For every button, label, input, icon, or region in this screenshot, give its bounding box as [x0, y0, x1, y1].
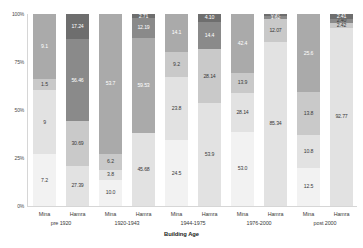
bar-group-labels: MinaHamra [28, 208, 94, 220]
bar-segment-value: 12.07 [269, 28, 281, 33]
stacked-bar[interactable]: 53.928.1414.44.10 [198, 14, 222, 206]
bar-segment-value: 6.2 [107, 159, 114, 164]
bar-slot: 12.510.813.825.6 [292, 14, 325, 206]
sub-label-slot: Hamra [127, 208, 160, 220]
bar-segment-value: 56.46 [71, 78, 83, 83]
bar-segment-value: 14.4 [205, 33, 215, 38]
stacked-bar[interactable]: 10.03.86.253.7 [99, 14, 123, 206]
bar-group: 12.510.813.825.692.772.422.402.41 [292, 14, 358, 206]
stacked-bar[interactable]: 53.028.1413.942.4 [231, 14, 255, 206]
stacked-bar[interactable]: 85.3412.071.620.97 [264, 14, 288, 206]
bar-group: 24.523.89.214.153.928.1414.44.10 [160, 14, 226, 206]
bar-segment[interactable]: 12.19 [132, 18, 156, 37]
bar-segment[interactable]: 42.4 [231, 14, 255, 73]
bar-segment[interactable]: 10.8 [297, 135, 321, 168]
bar-segment[interactable]: 27.39 [66, 166, 90, 206]
bar-slot: 7.291.59.1 [28, 14, 61, 206]
stacked-bar[interactable]: 27.3930.6956.4617.24 [66, 14, 90, 206]
stacked-bar[interactable]: 7.291.59.1 [33, 14, 57, 206]
y-axis-tick-label: 25% [15, 155, 24, 161]
bar-group-labels: MinaHamra [226, 208, 292, 220]
bar-segment[interactable]: 4.10 [198, 14, 222, 22]
sub-label-slot: Mina [160, 208, 193, 220]
bar-segment-value: 17.24 [71, 24, 83, 29]
y-axis-tick-label: 100% [12, 11, 24, 17]
stacked-bar[interactable]: 45.6859.5312.192.71 [132, 14, 156, 206]
bar-segment-value: 53.9 [205, 152, 215, 157]
bar-segment[interactable]: 3.8 [99, 170, 123, 180]
sub-label-slot: Hamra [61, 208, 94, 220]
x-axis-sub-label: Hamra [259, 208, 292, 217]
bar-segment-value: 92.77 [335, 114, 347, 119]
x-axis-line [27, 206, 357, 207]
stacked-bar[interactable]: 92.772.422.402.41 [330, 14, 354, 206]
bar-group: 10.03.86.253.745.6859.5312.192.71 [94, 14, 160, 206]
x-axis-sub-label: Hamra [193, 208, 226, 217]
bar-group: 7.291.59.127.3930.6956.4617.24 [28, 14, 94, 206]
bar-segment-value: 28.14 [236, 110, 248, 115]
bar-segment-value: 3.8 [107, 172, 114, 177]
bar-segment-value: 14.1 [172, 30, 182, 35]
y-axis-tick-label: 50% [15, 107, 24, 113]
bar-segment-value: 7.2 [41, 178, 48, 183]
bar-segment[interactable]: 9.2 [165, 52, 189, 77]
bar-segment[interactable]: 10.0 [99, 180, 123, 206]
bar-segment[interactable]: 14.4 [198, 22, 222, 49]
bar-segment[interactable]: 13.9 [231, 73, 255, 92]
bar-segment-value: 24.5 [172, 171, 182, 176]
bar-segment[interactable]: 92.77 [330, 28, 354, 206]
x-axis-subcategory-labels: MinaHamraMinaHamraMinaHamraMinaHamraMina… [28, 208, 358, 220]
bar-segment[interactable]: 45.68 [132, 133, 156, 206]
bar-segment[interactable]: 7.2 [33, 154, 57, 206]
bar-segment-value: 28.14 [203, 74, 215, 79]
bar-segment[interactable]: 59.53 [132, 38, 156, 133]
bar-segment-value: 13.8 [304, 111, 314, 116]
y-axis: 0%25%50%75%100% [0, 14, 26, 206]
bar-segment-value: 25.6 [304, 51, 314, 56]
bar-slot: 10.03.86.253.7 [94, 14, 127, 206]
bar-group: 53.028.1413.942.485.3412.071.620.97 [226, 14, 292, 206]
bar-segment-value: 9.2 [173, 62, 180, 67]
bar-segment[interactable]: 14.1 [165, 14, 189, 52]
sub-label-slot: Hamra [325, 208, 358, 220]
sub-label-slot: Mina [94, 208, 127, 220]
sub-label-slot: Mina [226, 208, 259, 220]
bar-segment[interactable]: 23.8 [165, 77, 189, 141]
bar-segment[interactable]: 53.7 [99, 14, 123, 154]
bar-group-labels: MinaHamra [160, 208, 226, 220]
bar-segment-value: 45.68 [137, 167, 149, 172]
bar-segment[interactable]: 13.8 [297, 92, 321, 134]
bar-slot: 53.928.1414.44.10 [193, 14, 226, 206]
bar-slot: 92.772.422.402.41 [325, 14, 358, 206]
bar-segment[interactable]: 28.14 [198, 49, 222, 103]
bar-segment[interactable]: 24.5 [165, 140, 189, 206]
bar-segment[interactable]: 12.07 [264, 19, 288, 42]
y-axis-tick-label: 75% [15, 59, 24, 65]
stacked-bar[interactable]: 24.523.89.214.1 [165, 14, 189, 206]
bar-segment[interactable]: 53.9 [198, 103, 222, 206]
bar-segment-value: 13.9 [238, 80, 248, 85]
chart-root: 0%25%50%75%100% 7.291.59.127.3930.6956.4… [0, 0, 363, 248]
bar-segment-value: 53.0 [238, 166, 248, 171]
bar-segment-value: 4.10 [205, 15, 215, 20]
bar-segment[interactable]: 56.46 [66, 39, 90, 121]
bar-segment[interactable]: 53.0 [231, 132, 255, 206]
bar-segment[interactable]: 17.24 [66, 14, 90, 39]
bar-segment[interactable]: 1.5 [33, 79, 57, 90]
bar-segment[interactable]: 30.69 [66, 121, 90, 166]
bar-segment[interactable]: 6.2 [99, 154, 123, 170]
x-axis-sub-label: Mina [160, 208, 193, 217]
bar-group-labels: MinaHamra [292, 208, 358, 220]
x-axis-sub-label: Mina [292, 208, 325, 217]
stacked-bar[interactable]: 12.510.813.825.6 [297, 14, 321, 206]
bar-segment[interactable]: 85.34 [264, 42, 288, 206]
x-axis-title: Building Age [0, 231, 363, 237]
y-axis-tick-label: 0% [17, 203, 24, 209]
sub-label-slot: Mina [28, 208, 61, 220]
bar-segment[interactable]: 25.6 [297, 14, 321, 92]
bar-segment[interactable]: 9 [33, 90, 57, 154]
bar-segment[interactable]: 9.1 [33, 14, 57, 79]
bar-slot: 53.028.1413.942.4 [226, 14, 259, 206]
bar-segment[interactable]: 28.14 [231, 93, 255, 132]
bar-segment[interactable]: 12.5 [297, 168, 321, 206]
